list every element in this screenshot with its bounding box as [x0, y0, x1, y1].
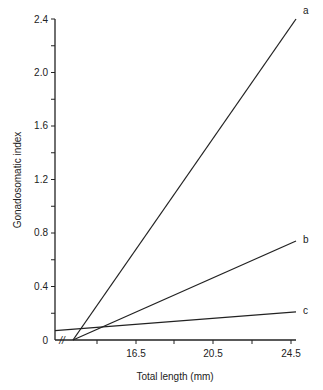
y-tick-label: 0.8 [34, 227, 48, 238]
series-line-b [73, 241, 296, 340]
series-label-a: a [303, 5, 309, 16]
series-label-c: c [303, 305, 308, 316]
x-tick-label: 16.5 [126, 348, 146, 359]
y-tick-labels: 2.4 2.0 1.6 1.2 0.8 0.4 0 [34, 14, 48, 346]
x-axis-title: Total length (mm) [136, 371, 213, 382]
series-line-a [73, 19, 296, 340]
chart: 2.4 2.0 1.6 1.2 0.8 0.4 0 Gonadosomatic … [0, 0, 323, 390]
y-tick-label: 2.4 [34, 14, 48, 25]
y-tick-label: 1.2 [34, 174, 48, 185]
x-tick-label: 20.5 [203, 348, 223, 359]
x-tick-label: 24.5 [281, 348, 301, 359]
y-tick-label: 0.4 [34, 281, 48, 292]
y-axis-title: Gonadosomatic index [12, 132, 23, 229]
series-label-b: b [303, 234, 309, 245]
y-tick-label: 1.6 [34, 120, 48, 131]
y-tick-label: 2.0 [34, 67, 48, 78]
y-tick-label: 0 [42, 335, 48, 346]
x-tick-labels: 16.5 20.5 24.5 [126, 348, 301, 359]
